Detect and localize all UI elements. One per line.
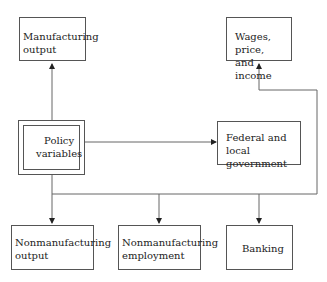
node-wages-price-income: Wages, price, and income bbox=[226, 17, 292, 61]
node-nonmanufacturing-employment: Nonmanufacturing employment bbox=[118, 225, 201, 270]
node-federal-local-government: Federal and local government bbox=[217, 121, 301, 165]
node-label: Nonmanufacturing output bbox=[15, 236, 111, 262]
node-manufacturing-output: Manufacturing output bbox=[19, 17, 86, 61]
node-banking: Banking bbox=[226, 225, 293, 270]
node-label: Nonmanufacturing employment bbox=[122, 236, 218, 262]
node-label: Federal and local government bbox=[226, 131, 300, 170]
node-label: Wages, price, and income bbox=[235, 30, 291, 82]
node-label: Banking bbox=[242, 242, 284, 255]
node-label: Policy variables bbox=[36, 134, 82, 160]
node-policy-variables: Policy variables bbox=[23, 125, 80, 170]
node-nonmanufacturing-output: Nonmanufacturing output bbox=[11, 225, 94, 270]
node-label: Manufacturing output bbox=[23, 30, 99, 56]
node-policy-variables-outer: Policy variables bbox=[18, 120, 85, 175]
